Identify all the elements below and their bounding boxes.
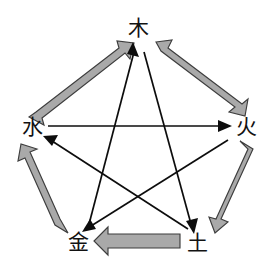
node-label-metal: 金 bbox=[68, 232, 89, 253]
overcoming-arrow-water-to-fire bbox=[48, 120, 232, 132]
node-label-earth: 土 bbox=[187, 233, 208, 254]
overcoming-arrow-fire-to-metal bbox=[82, 140, 228, 232]
generating-cycle-group bbox=[18, 40, 253, 255]
generating-arrow-wood-to-fire bbox=[156, 40, 248, 116]
wuxing-diagram: 木 火 土 金 水 bbox=[0, 0, 277, 273]
overcoming-cycle-group bbox=[43, 42, 232, 234]
node-label-water: 水 bbox=[22, 117, 43, 138]
overcoming-arrow-earth-to-water bbox=[43, 135, 188, 229]
node-label-wood: 木 bbox=[128, 18, 149, 39]
generating-arrow-earth-to-metal bbox=[94, 227, 180, 255]
generating-arrow-fire-to-earth bbox=[209, 141, 253, 233]
generating-arrow-metal-to-water bbox=[18, 144, 68, 233]
node-label-fire: 火 bbox=[236, 117, 257, 138]
